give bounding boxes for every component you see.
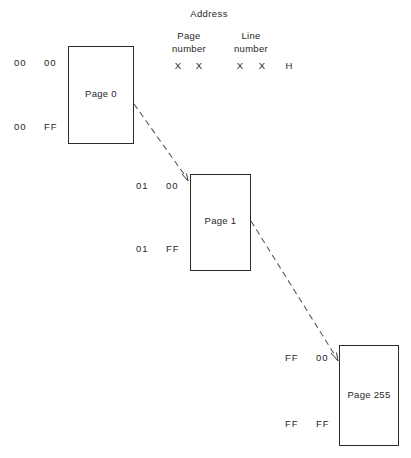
- connector-page0-to-page1-arrowhead: [182, 174, 188, 182]
- page255-bottom-line-number: FF: [316, 418, 329, 429]
- diagram-canvas: Address Page number Line number X X X X …: [0, 0, 411, 458]
- connector-page1-to-page255-arrowhead: [331, 353, 338, 362]
- page-box-page-0-label: Page 0: [69, 88, 133, 99]
- page1-bottom-line-number: FF: [166, 243, 179, 254]
- page0-top-line-number: 00: [44, 57, 56, 68]
- page-box-page-255-label: Page 255: [340, 389, 398, 400]
- page0-bottom-line-number: FF: [44, 121, 57, 132]
- page-box-page-1-label: Page 1: [191, 215, 250, 226]
- page255-bottom-page-number: FF: [285, 418, 298, 429]
- page1-bottom-page-number: 01: [136, 243, 148, 254]
- page255-top-page-number: FF: [285, 352, 298, 363]
- page-box-page-1: Page 1: [190, 174, 251, 271]
- page-box-page-0: Page 0: [68, 46, 134, 144]
- connector-page0-to-page1: [134, 104, 186, 177]
- connector-page1-to-page255: [251, 221, 336, 357]
- page255-top-line-number: 00: [316, 352, 328, 363]
- page-box-page-255: Page 255: [339, 345, 399, 446]
- page1-top-line-number: 00: [166, 180, 178, 191]
- page1-top-page-number: 01: [136, 180, 148, 191]
- page0-bottom-page-number: 00: [14, 121, 26, 132]
- page0-top-page-number: 00: [14, 57, 26, 68]
